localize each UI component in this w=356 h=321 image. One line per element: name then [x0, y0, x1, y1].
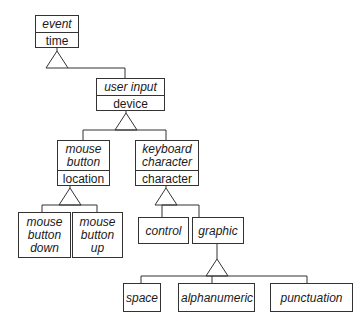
- class-name: mouse button down: [19, 214, 70, 256]
- class-attribute: character: [136, 170, 198, 187]
- class-name: control: [139, 223, 188, 239]
- class-attribute: device: [97, 95, 164, 112]
- class-name: mouse button: [58, 141, 109, 170]
- class-name: event: [36, 16, 78, 32]
- generalization-triangle: [155, 188, 177, 205]
- class-name: graphic: [193, 223, 243, 239]
- class-attribute: time: [36, 32, 78, 49]
- class-punctuation[interactable]: punctuation: [270, 283, 353, 312]
- class-user-input[interactable]: user input device: [96, 78, 165, 111]
- generalization-triangle: [46, 51, 68, 68]
- generalization-triangle: [206, 259, 228, 276]
- class-graphic[interactable]: graphic: [192, 217, 244, 244]
- class-keyboard-character[interactable]: keyboard character character: [135, 140, 199, 186]
- class-name: space: [124, 290, 160, 306]
- class-control[interactable]: control: [138, 217, 189, 244]
- class-mouse-button-down[interactable]: mouse button down: [18, 212, 71, 258]
- class-attribute: location: [58, 170, 109, 187]
- class-alphanumeric[interactable]: alphanumeric: [178, 283, 255, 312]
- class-name: mouse button up: [73, 214, 122, 256]
- generalization-triangle: [59, 188, 81, 205]
- class-space[interactable]: space: [123, 283, 161, 312]
- class-name: keyboard character: [136, 141, 198, 170]
- class-name: user input: [97, 79, 164, 95]
- class-name: alphanumeric: [179, 290, 254, 306]
- class-mouse-button[interactable]: mouse button location: [57, 140, 110, 186]
- class-event[interactable]: event time: [35, 15, 79, 48]
- generalization-triangle: [115, 113, 137, 130]
- class-name: punctuation: [271, 290, 352, 306]
- class-mouse-button-up[interactable]: mouse button up: [72, 212, 123, 258]
